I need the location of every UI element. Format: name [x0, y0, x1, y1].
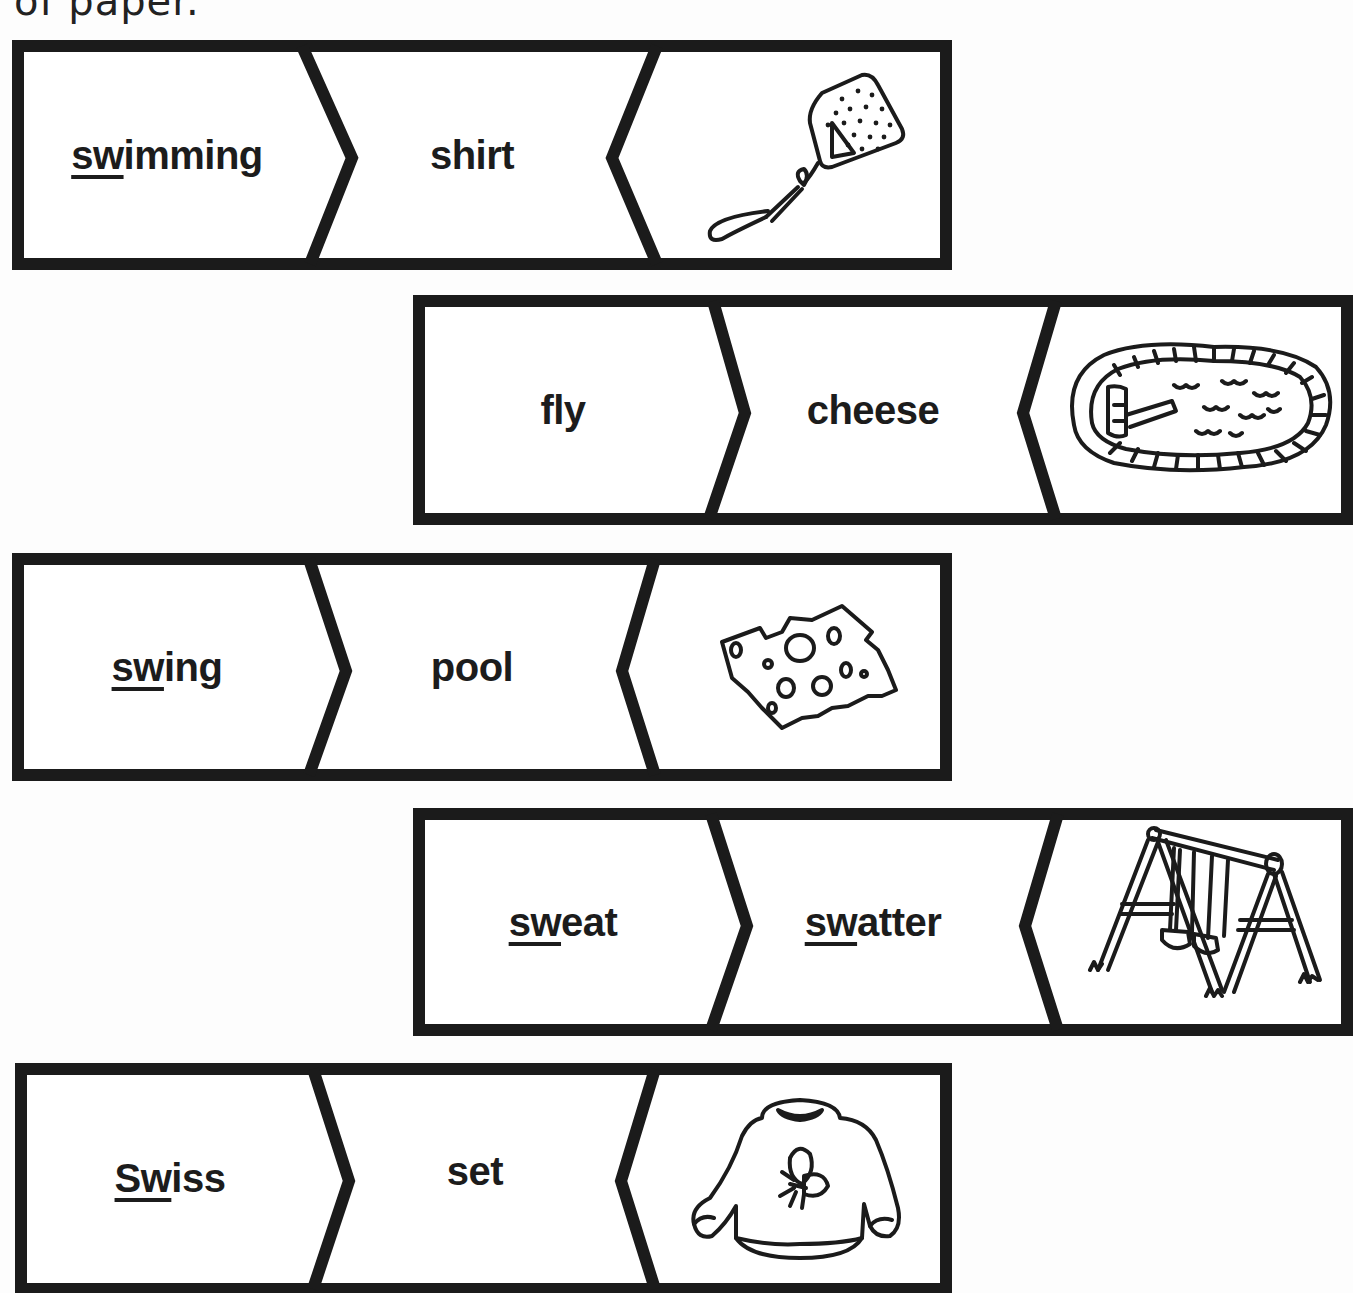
word-rest: imming — [124, 133, 263, 178]
word-rest: set — [447, 1149, 503, 1194]
instruction-text: of paper. — [14, 0, 200, 24]
word-piece-1[interactable]: fly — [413, 295, 713, 525]
blend-letters: sw — [112, 645, 164, 690]
picture-piece[interactable] — [1058, 808, 1348, 1036]
word-rest: iss — [171, 1156, 225, 1201]
swiss-cheese-icon — [682, 592, 922, 742]
puzzle-strip-3: swing pool — [12, 553, 952, 781]
word-piece-2[interactable]: pool — [342, 553, 602, 781]
swing-set-icon — [1078, 820, 1328, 1010]
fly-swatter-icon — [682, 65, 922, 245]
puzzle-strip-1: swimming shirt — [12, 40, 952, 270]
swimming-pool-icon — [1054, 335, 1344, 485]
word-rest: eat — [561, 900, 617, 945]
puzzle-strip-4: sweat swatter — [413, 808, 1353, 1036]
word-piece-1[interactable]: swimming — [12, 40, 322, 270]
picture-piece[interactable] — [652, 40, 952, 270]
word-piece-2[interactable]: cheese — [733, 295, 1013, 525]
word-piece-1[interactable]: Swiss — [15, 1063, 325, 1293]
picture-piece[interactable] — [652, 553, 952, 781]
blend-letters: sw — [71, 133, 123, 178]
blend-letters: sw — [805, 900, 857, 945]
word-piece-1[interactable]: sweat — [413, 808, 713, 1036]
blend-letters: Sw — [115, 1156, 172, 1201]
word-rest: cheese — [807, 388, 940, 433]
puzzle-strip-5: Swiss set — [15, 1063, 952, 1293]
word-piece-1[interactable]: swing — [12, 553, 322, 781]
picture-piece[interactable] — [1049, 295, 1349, 525]
blend-letters: sw — [509, 900, 561, 945]
word-rest: ing — [164, 645, 222, 690]
word-rest: atter — [857, 900, 941, 945]
word-rest: pool — [431, 645, 513, 690]
word-piece-2[interactable]: shirt — [342, 40, 602, 270]
sweatshirt-icon — [670, 1088, 930, 1268]
word-rest: shirt — [430, 133, 514, 178]
word-piece-2[interactable]: set — [345, 1063, 605, 1293]
puzzle-strip-2: fly cheese — [413, 295, 1353, 525]
word-rest: fly — [540, 388, 585, 433]
word-piece-2[interactable]: swatter — [733, 808, 1013, 1036]
picture-piece[interactable] — [655, 1063, 945, 1293]
